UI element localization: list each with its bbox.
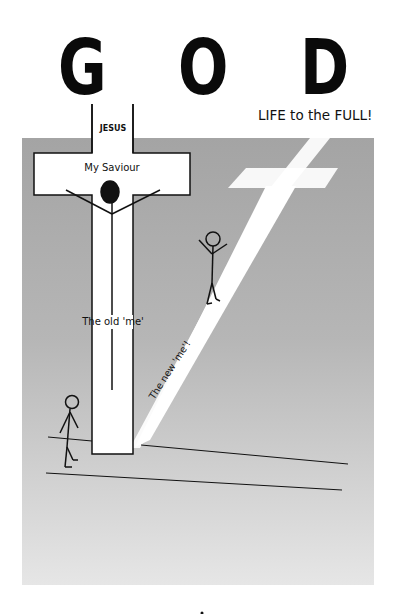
cross-label-jesus: JESUS bbox=[99, 124, 127, 133]
cross-label-old-me: The old 'me' bbox=[81, 316, 144, 327]
cross-label-saviour: My Saviour bbox=[84, 162, 140, 173]
illustration: JESUS My Saviour The old 'me' The new 'm… bbox=[0, 0, 394, 614]
background-panel bbox=[22, 138, 374, 585]
